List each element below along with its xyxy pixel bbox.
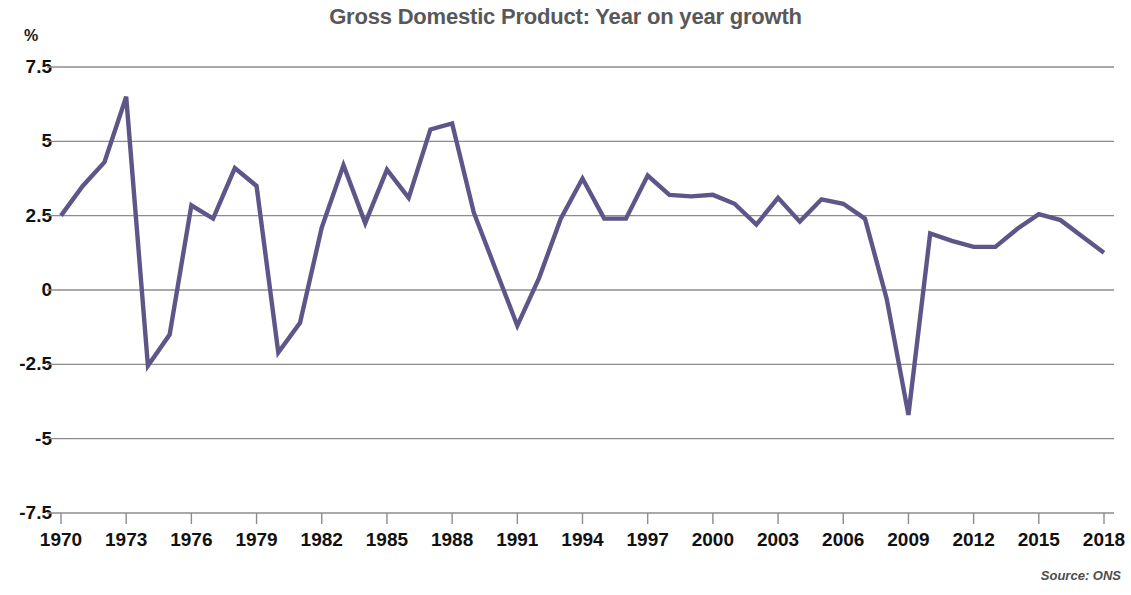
x-axis-tick-label: 2006 [822,529,864,551]
x-axis-tick-label: 2015 [1018,529,1060,551]
x-axis-tick-marks-group [61,513,1104,524]
x-axis-tick-label: 2012 [952,529,994,551]
x-axis-tick-label: 1982 [301,529,343,551]
x-axis-tick-label: 1976 [170,529,212,551]
x-axis-tick-label: 1979 [235,529,277,551]
x-axis-tick-label: 1991 [496,529,538,551]
chart-plot-area [0,0,1131,595]
x-axis-tick-label: 1997 [627,529,669,551]
x-axis-tick-label: 1985 [366,529,408,551]
x-axis-tick-label: 1994 [561,529,603,551]
x-axis-tick-label: 2000 [692,529,734,551]
x-axis-tick-label: 2009 [887,529,929,551]
x-axis-tick-label: 1973 [105,529,147,551]
gridlines-group [47,67,1114,513]
x-axis-tick-label: 2003 [757,529,799,551]
gdp-growth-chart-figure: Gross Domestic Product: Year on year gro… [0,0,1131,595]
x-axis-tick-label: 2018 [1083,529,1125,551]
gdp-growth-line [61,97,1104,415]
x-axis-tick-label: 1988 [431,529,473,551]
x-axis-tick-label: 1970 [40,529,82,551]
source-note: Source: ONS [1041,568,1121,583]
